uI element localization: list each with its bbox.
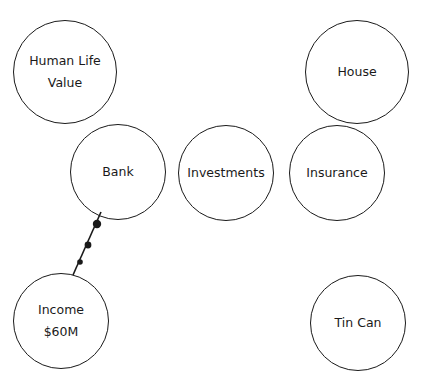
node-value: $60M [44, 326, 79, 339]
node-house[interactable]: House [305, 20, 409, 124]
node-label: Insurance [306, 167, 367, 180]
node-label: House [337, 66, 376, 79]
node-income[interactable]: Income $60M [13, 273, 109, 369]
node-bank[interactable]: Bank [70, 124, 166, 220]
node-investments[interactable]: Investments [178, 125, 274, 221]
money-flow-diagram: Human Life Value House Bank Investments … [0, 0, 426, 385]
node-label: Human Life [29, 55, 101, 68]
node-label: Investments [187, 167, 264, 180]
node-label: Value [48, 77, 82, 90]
flow-dot-small [77, 259, 83, 265]
node-tin-can[interactable]: Tin Can [310, 275, 406, 371]
connector-line [73, 212, 101, 275]
node-insurance[interactable]: Insurance [289, 125, 385, 221]
node-label: Bank [102, 166, 133, 179]
node-label: Income [38, 304, 84, 317]
node-human-life-value[interactable]: Human Life Value [13, 20, 117, 124]
flow-dot-medium [85, 242, 92, 249]
node-label: Tin Can [335, 317, 382, 330]
flow-dot-large [93, 220, 101, 228]
